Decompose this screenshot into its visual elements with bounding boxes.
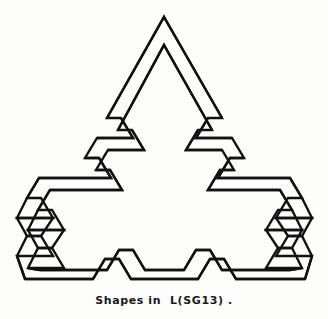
notch-upper-right <box>196 118 232 138</box>
figure-detail-strokes <box>17 17 312 279</box>
apex-outer-v <box>107 17 222 118</box>
notch-upper-left <box>97 118 133 138</box>
notch-upper-left-inner <box>108 130 144 150</box>
notch-upper-right-inner <box>186 130 222 150</box>
figure-canvas <box>0 0 328 290</box>
sierpinski-figure <box>0 0 328 290</box>
inner-contour-path <box>28 45 302 270</box>
shoulder-mid-right-inner <box>208 170 292 210</box>
figure-page: Shapes in L(SG13) . <box>0 0 328 319</box>
baseline-inner-stepped <box>40 250 290 270</box>
outer-contour-path <box>17 17 312 279</box>
apex-inner-v <box>118 45 212 130</box>
outer-contour-group <box>17 17 312 279</box>
figure-caption: Shapes in L(SG13) . <box>0 290 328 319</box>
